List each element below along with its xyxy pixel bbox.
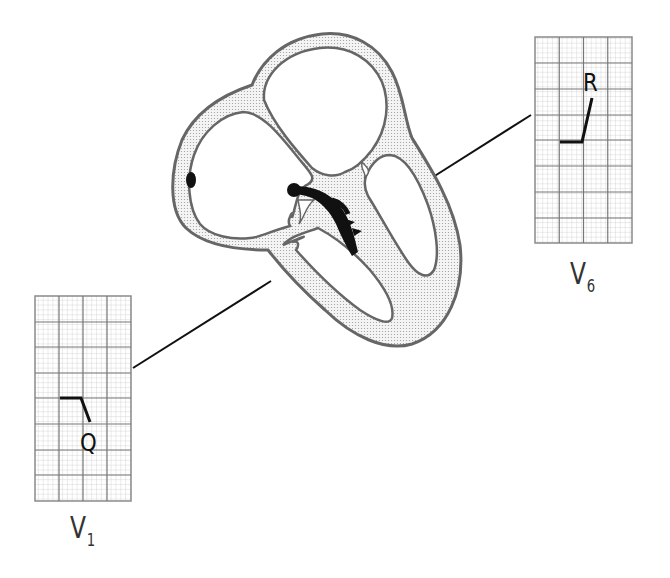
v1-wave-label-q: Q	[80, 428, 97, 457]
v1-lead-label: V1	[70, 510, 95, 545]
v6-lead-line	[433, 115, 531, 177]
v1-lead-line	[133, 281, 271, 368]
ecg-heart-diagram: R Q V6 V1	[0, 0, 670, 578]
v6-lead-label: V6	[570, 256, 595, 291]
v1-ecg-strip	[35, 296, 131, 501]
v6-wave-label-r: R	[583, 68, 598, 97]
v1-label-main: V	[70, 510, 86, 545]
v6-label-main: V	[570, 256, 586, 291]
sa-node-dot	[186, 172, 196, 188]
v6-label-sub: 6	[587, 276, 595, 296]
heart	[173, 34, 461, 346]
v1-label-sub: 1	[87, 530, 95, 550]
